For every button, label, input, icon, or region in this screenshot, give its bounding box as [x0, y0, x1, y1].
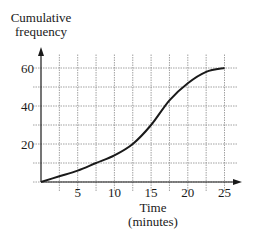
x-tick-label: 25 — [218, 185, 231, 200]
y-tick-label: 40 — [21, 99, 34, 114]
x-tick-label: 20 — [181, 185, 194, 200]
x-axis-arrow-icon — [233, 179, 242, 185]
x-axis-label-line-2: (minutes) — [113, 215, 193, 229]
x-tick-label: 10 — [108, 185, 121, 200]
x-tick-label: 15 — [145, 185, 158, 200]
y-axis-arrow-icon — [38, 47, 44, 56]
grid-lines — [33, 55, 238, 193]
x-tick-label: 5 — [74, 185, 81, 200]
x-axis-label: Time (minutes) — [113, 201, 193, 229]
x-axis-label-line-1: Time — [113, 201, 193, 215]
y-tick-label: 20 — [21, 137, 34, 152]
y-tick-label: 60 — [21, 61, 34, 76]
